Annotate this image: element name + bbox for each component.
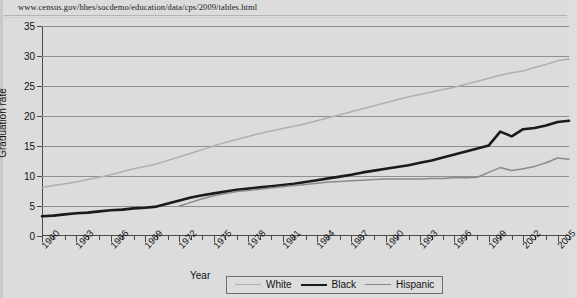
series-line-white (42, 59, 569, 187)
y-axis-tick-label: 35 (24, 21, 35, 32)
y-axis-tick-label: 25 (24, 81, 35, 92)
y-axis-tick-label: 20 (24, 111, 35, 122)
x-axis-minor-tick (168, 236, 169, 240)
y-axis-tick-label: 30 (24, 51, 35, 62)
x-axis-minor-tick (271, 236, 272, 240)
graduation-rate-line-chart: Graduation rate 05101520253035 196019631… (0, 18, 569, 280)
white-line-swatch (235, 284, 261, 285)
legend-item-hispanic: Hispanic (365, 279, 434, 290)
x-axis-minor-tick (99, 236, 100, 240)
y-axis-tick-label: 10 (24, 171, 35, 182)
plot-area: 05101520253035 1960196319661969197219751… (42, 26, 569, 236)
x-axis-minor-tick (340, 236, 341, 240)
legend-label-black: Black (332, 279, 356, 290)
x-axis-minor-tick (443, 236, 444, 240)
series-line-hispanic (179, 158, 569, 206)
black-line-swatch (301, 284, 327, 286)
y-axis-title: Graduation rate (0, 88, 8, 158)
x-axis-minor-tick (512, 236, 513, 240)
series-line-black (42, 121, 569, 216)
legend-item-white: White (235, 279, 292, 290)
chart-legend: White Black Hispanic (226, 276, 443, 294)
x-axis-minor-tick (134, 236, 135, 240)
legend-label-white: White (266, 279, 292, 290)
x-axis-minor-tick (306, 236, 307, 240)
x-axis-title: Year (190, 270, 210, 281)
y-axis-tick-label: 15 (24, 141, 35, 152)
header-rule (4, 15, 567, 16)
legend-label-hispanic: Hispanic (396, 279, 434, 290)
x-axis-minor-tick (202, 236, 203, 240)
x-axis-minor-tick (237, 236, 238, 240)
x-axis-minor-tick (65, 236, 66, 240)
x-axis-minor-tick (409, 236, 410, 240)
x-axis-minor-tick (374, 236, 375, 240)
hispanic-line-swatch (365, 284, 391, 285)
legend-item-black: Black (301, 279, 356, 290)
source-url-text: www.census.gov/hhes/socdemo/education/da… (18, 2, 257, 12)
series-lines (42, 26, 569, 236)
x-axis-minor-tick (477, 236, 478, 240)
y-axis-tick-label: 0 (29, 231, 35, 242)
y-axis-tick-label: 5 (29, 201, 35, 212)
x-axis-minor-tick (546, 236, 547, 240)
